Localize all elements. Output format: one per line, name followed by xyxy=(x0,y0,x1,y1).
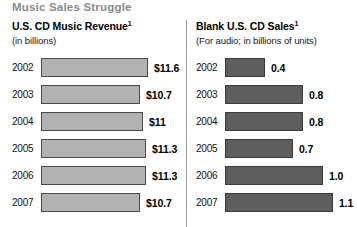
row-year-label: 2002 xyxy=(196,62,225,73)
row-year-label: 2005 xyxy=(12,143,41,154)
row-year-label: 2005 xyxy=(196,143,225,154)
bar-wrapper: $10.7 xyxy=(41,193,172,212)
bar-wrapper: $10.7 xyxy=(41,85,172,104)
row-year-label: 2003 xyxy=(12,89,41,100)
table-row: 2007 $10.7 xyxy=(12,193,182,212)
row-year-label: 2006 xyxy=(12,170,41,181)
bar-wrapper: $11.6 xyxy=(41,58,179,77)
bar-segment xyxy=(41,166,146,185)
table-row: 2002 $11.6 xyxy=(12,58,182,77)
bar-segment xyxy=(41,58,148,77)
bar-value-label: $11.3 xyxy=(152,143,177,155)
table-row: 2006 1.0 xyxy=(196,166,351,185)
bar-segment xyxy=(41,139,146,158)
panel-title-left: U.S. CD Music Revenue1 xyxy=(12,20,182,33)
table-row: 2004 $11 xyxy=(12,112,182,131)
bar-value-label: 1.0 xyxy=(329,170,343,182)
row-year-label: 2003 xyxy=(196,89,225,100)
bar-segment xyxy=(41,112,143,131)
bar-segment xyxy=(41,193,140,212)
table-row: 2005 $11.3 xyxy=(12,139,182,158)
bar-value-label: 1.1 xyxy=(339,197,353,209)
bar-value-label: $11 xyxy=(149,116,166,128)
panel-title-right: Blank U.S. CD Sales1 xyxy=(196,20,351,33)
table-row: 2003 $10.7 xyxy=(12,85,182,104)
panel-title-left-footnote: 1 xyxy=(128,20,132,27)
row-year-label: 2004 xyxy=(196,116,225,127)
bar-value-label: 0.4 xyxy=(271,62,285,74)
bar-value-label: $11.6 xyxy=(154,62,179,74)
bar-segment xyxy=(225,166,323,185)
panel-title-right-text: Blank U.S. CD Sales xyxy=(196,20,294,32)
bar-wrapper: $11.3 xyxy=(41,139,177,158)
bar-wrapper: 0.8 xyxy=(225,85,323,104)
bar-value-label: $11.3 xyxy=(152,170,177,182)
panel-title-right-footnote: 1 xyxy=(294,20,298,27)
table-row: 2003 0.8 xyxy=(196,85,351,104)
row-year-label: 2004 xyxy=(12,116,41,127)
table-row: 2004 0.8 xyxy=(196,112,351,131)
bar-segment xyxy=(41,85,140,104)
bar-wrapper: 1.1 xyxy=(225,193,353,212)
panel-divider xyxy=(186,20,187,227)
bar-wrapper: $11.3 xyxy=(41,166,177,185)
table-row: 2006 $11.3 xyxy=(12,166,182,185)
bar-segment xyxy=(225,193,333,212)
bar-segment xyxy=(225,112,303,131)
panel-subtitle-left: (in billions) xyxy=(12,34,182,47)
bar-value-label: 0.8 xyxy=(309,89,323,101)
panel-cd-music-revenue: U.S. CD Music Revenue1 (in billions) 200… xyxy=(12,20,182,47)
bar-segment xyxy=(225,139,293,158)
bar-wrapper: 0.4 xyxy=(225,58,285,77)
bar-value-label: $10.7 xyxy=(146,89,172,101)
bar-value-label: 0.8 xyxy=(309,116,323,128)
bar-wrapper: 1.0 xyxy=(225,166,343,185)
bar-segment xyxy=(225,58,265,77)
table-row: 2005 0.7 xyxy=(196,139,351,158)
panel-title-left-text: U.S. CD Music Revenue xyxy=(12,20,128,32)
bar-wrapper: 0.7 xyxy=(225,139,313,158)
table-row: 2002 0.4 xyxy=(196,58,351,77)
bar-rows-right: 2002 0.4 2003 0.8 2004 0.8 xyxy=(196,58,351,220)
bar-value-label: $10.7 xyxy=(146,197,172,209)
row-year-label: 2006 xyxy=(196,170,225,181)
row-year-label: 2007 xyxy=(196,197,225,208)
table-row: 2007 1.1 xyxy=(196,193,351,212)
bar-value-label: 0.7 xyxy=(299,143,313,155)
page-title: Music Sales Struggle xyxy=(12,1,132,13)
bar-segment xyxy=(225,85,303,104)
bar-rows-left: 2002 $11.6 2003 $10.7 2004 $11 xyxy=(12,58,182,220)
row-year-label: 2002 xyxy=(12,62,41,73)
bar-wrapper: 0.8 xyxy=(225,112,323,131)
infographic-root: Music Sales Struggle U.S. CD Music Reven… xyxy=(0,0,357,227)
bar-wrapper: $11 xyxy=(41,112,166,131)
row-year-label: 2007 xyxy=(12,197,41,208)
panel-subtitle-right: (For audio; in billions of units) xyxy=(196,34,351,47)
panel-blank-cd-sales: Blank U.S. CD Sales1 (For audio; in bill… xyxy=(196,20,351,47)
